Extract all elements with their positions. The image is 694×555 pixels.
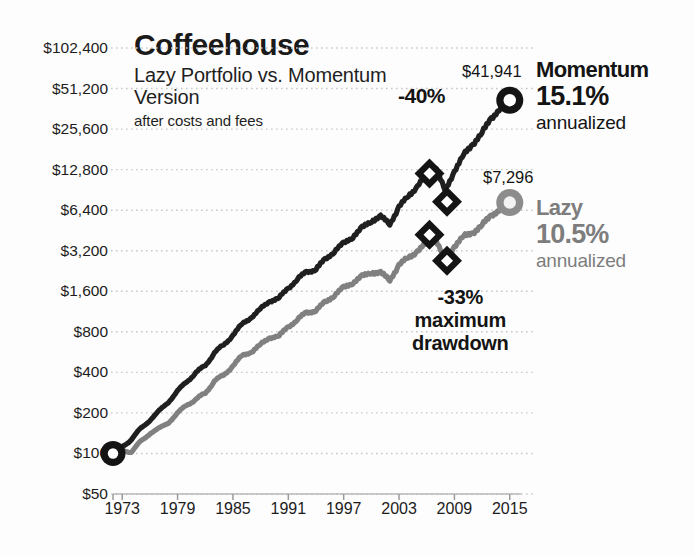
legend-lazy-unit: annualized xyxy=(536,251,626,272)
lazy-drawdown-word-drawdown: drawdown xyxy=(412,332,509,355)
start-marker-inner xyxy=(108,448,118,458)
x-axis-tick-label: 1979 xyxy=(160,500,196,518)
legend-momentum-value: 15.1% xyxy=(536,82,649,112)
momentum-end-value-label: $41,941 xyxy=(462,62,522,81)
legend-lazy: Lazy 10.5% annualized xyxy=(536,196,626,272)
x-axis-tick-label: 2009 xyxy=(437,500,473,518)
legend-momentum-unit: annualized xyxy=(536,113,649,134)
chart-page: Coffeehouse Lazy Portfolio vs. Momentum … xyxy=(0,0,694,555)
x-axis-tick-label: 1973 xyxy=(104,500,140,518)
momentum-drawdown-label: -40% xyxy=(398,84,445,108)
x-axis-tick-label: 1985 xyxy=(215,500,251,518)
lazy-drawdown-percent: -33% xyxy=(412,286,509,309)
legend-lazy-value: 10.5% xyxy=(536,220,626,250)
x-axis-tick-label: 2003 xyxy=(381,500,417,518)
lazy-drawdown-word-maximum: maximum xyxy=(412,309,509,332)
legend-momentum-name: Momentum xyxy=(536,58,649,81)
lazy-drawdown-label: -33% maximum drawdown xyxy=(412,286,509,356)
x-axis-tick-label: 2015 xyxy=(492,500,528,518)
lazy-end-value-label: $7,296 xyxy=(483,168,533,187)
series-line-momentum xyxy=(113,100,510,453)
x-axis-tick-label: 1997 xyxy=(326,500,362,518)
legend-momentum: Momentum 15.1% annualized xyxy=(536,58,649,134)
x-axis-tick-label: 1991 xyxy=(271,500,307,518)
lazy-end-marker-inner xyxy=(504,196,516,208)
momentum-end-marker-inner xyxy=(504,94,516,106)
legend-lazy-name: Lazy xyxy=(536,196,626,219)
